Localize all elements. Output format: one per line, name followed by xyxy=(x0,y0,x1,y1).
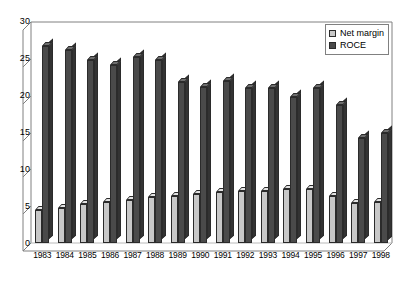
bar-net-margin-1991 xyxy=(216,192,223,243)
x-tick-label: 1995 xyxy=(302,250,325,270)
legend-item-roce: ROCE xyxy=(329,39,384,51)
y-tick-label: 25 xyxy=(4,54,30,63)
legend-swatch-net-margin-icon xyxy=(329,30,336,37)
x-tick-label: 1994 xyxy=(279,250,302,270)
bar-roce-1990 xyxy=(200,87,207,243)
x-tick-label: 1985 xyxy=(76,250,99,270)
x-tick-label: 1998 xyxy=(369,250,392,270)
bar-net-margin-1997 xyxy=(351,203,358,243)
bar-roce-1989 xyxy=(178,82,185,243)
bar-face xyxy=(110,65,117,243)
plot-area-bars xyxy=(31,22,392,243)
bar-face xyxy=(329,196,336,243)
y-axis: 30 25 20 15 10 5 0 xyxy=(0,0,30,281)
bar-face xyxy=(178,82,185,243)
bar-face xyxy=(223,81,230,243)
legend-label-roce: ROCE xyxy=(340,40,366,50)
x-tick-label: 1992 xyxy=(234,250,257,270)
bar-face xyxy=(171,196,178,243)
bar-face xyxy=(358,138,365,243)
bar-face xyxy=(87,60,94,243)
bar-group xyxy=(31,22,54,243)
x-axis: 1983198419851986198719881989199019911992… xyxy=(31,250,392,270)
bar-face xyxy=(336,105,343,243)
bar-roce-1987 xyxy=(133,57,140,243)
bar-group xyxy=(76,22,99,243)
bar-face xyxy=(261,191,268,243)
bar-face xyxy=(80,204,87,243)
x-tick-label: 1991 xyxy=(212,250,235,270)
bar-roce-1988 xyxy=(155,60,162,243)
bar-roce-1983 xyxy=(42,46,49,243)
bar-face xyxy=(148,197,155,243)
bar-net-margin-1996 xyxy=(329,196,336,243)
bar-face xyxy=(245,88,252,243)
bar-net-margin-1992 xyxy=(238,191,245,243)
bar-face xyxy=(268,88,275,243)
y-tick-label: 0 xyxy=(4,239,30,248)
bar-net-margin-1998 xyxy=(374,202,381,243)
bar-roce-1996 xyxy=(336,105,343,243)
y-tick-label: 5 xyxy=(4,202,30,211)
bar-face xyxy=(35,210,42,243)
y-tick-label: 15 xyxy=(4,128,30,137)
bar-roce-1993 xyxy=(268,88,275,243)
x-tick-label: 1997 xyxy=(347,250,370,270)
bar-net-margin-1990 xyxy=(193,194,200,243)
bar-net-margin-1988 xyxy=(148,197,155,243)
x-tick-label: 1993 xyxy=(257,250,280,270)
bar-face xyxy=(42,46,49,243)
bar-face xyxy=(155,60,162,243)
bar-face xyxy=(193,194,200,243)
bar-roce-1984 xyxy=(65,50,72,243)
bar-face xyxy=(65,50,72,243)
bar-face xyxy=(126,200,133,243)
legend-swatch-roce-icon xyxy=(329,42,336,49)
x-tick-label: 1990 xyxy=(189,250,212,270)
bar-roce-1994 xyxy=(290,97,297,243)
bar-face xyxy=(351,203,358,243)
bar-group xyxy=(369,22,392,243)
bar-net-margin-1985 xyxy=(80,204,87,243)
bar-face xyxy=(306,189,313,244)
y-tick-label: 20 xyxy=(4,91,30,100)
legend-label-net-margin: Net margin xyxy=(340,28,384,38)
bar-group xyxy=(99,22,122,243)
bar-net-margin-1987 xyxy=(126,200,133,243)
bar-group xyxy=(257,22,280,243)
bar-group xyxy=(189,22,212,243)
bar-face xyxy=(381,133,388,244)
bar-roce-1985 xyxy=(87,60,94,243)
legend-item-net-margin: Net margin xyxy=(329,27,384,39)
bar-group xyxy=(324,22,347,243)
x-tick-label: 1986 xyxy=(99,250,122,270)
x-tick-label: 1996 xyxy=(324,250,347,270)
bar-group xyxy=(212,22,235,243)
bar-net-margin-1984 xyxy=(58,208,65,243)
bar-face xyxy=(58,208,65,243)
bar-group xyxy=(302,22,325,243)
bar-face xyxy=(133,57,140,243)
x-tick-label: 1983 xyxy=(31,250,54,270)
bar-net-margin-1993 xyxy=(261,191,268,243)
bar-face xyxy=(283,189,290,243)
y-tick-label: 10 xyxy=(4,165,30,174)
bar-roce-1997 xyxy=(358,138,365,243)
bar-roce-1992 xyxy=(245,88,252,243)
x-tick-label: 1984 xyxy=(54,250,77,270)
bar-face xyxy=(216,192,223,243)
bar-group xyxy=(166,22,189,243)
bar-face xyxy=(290,97,297,243)
bar-face xyxy=(374,202,381,243)
bar-group xyxy=(121,22,144,243)
bar-group xyxy=(279,22,302,243)
bar-group xyxy=(144,22,167,243)
x-tick-label: 1989 xyxy=(166,250,189,270)
bar-face xyxy=(103,202,110,243)
bar-roce-1998 xyxy=(381,133,388,244)
bar-net-margin-1989 xyxy=(171,196,178,243)
bar-side xyxy=(388,125,392,239)
bar-group xyxy=(234,22,257,243)
chart-container: 30 25 20 15 10 5 0 198319841985198619871… xyxy=(0,0,409,281)
x-tick-label: 1988 xyxy=(144,250,167,270)
